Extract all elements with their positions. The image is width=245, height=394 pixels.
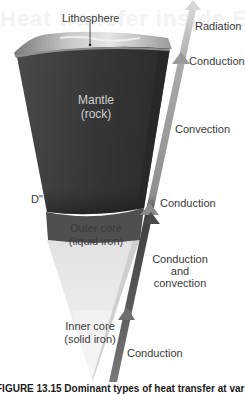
d-double-prime-label: D" [31,193,43,206]
conduction-convection-outer-core-label: Conduction and convection [140,253,220,289]
inner-core-label-line2: (solid iron) [60,333,120,346]
outer-core-transfer-line3: convection [140,277,220,289]
mantle-label: Mantle (rock) [66,93,126,121]
outer-core-label-line2: (liquid iron) [56,235,136,248]
outer-core-label-line1: Outer core [56,222,136,235]
lithosphere-label: Lithosphere [62,12,120,25]
inner-core-label: Inner core (solid iron) [60,320,120,346]
radiation-label: Radiation [195,20,241,33]
outer-core-transfer-line1: Conduction [140,253,220,265]
outer-core-label: Outer core (liquid iron) [56,222,136,248]
conduction-inner-core-label: Conduction [127,347,183,360]
conduction-lithosphere-label: Conduction [189,55,245,68]
arrowhead-lithosphere [172,52,190,64]
inner-core-label-line1: Inner core [60,320,120,333]
mantle-label-line1: Mantle [66,93,126,107]
arrowhead-top [185,0,201,10]
figure-caption: FIGURE 13.15 Dominant types of heat tran… [0,383,245,394]
outer-core-transfer-line2: and [140,265,220,277]
mantle-label-line2: (rock) [66,107,126,121]
convection-mantle-label: Convection [175,123,230,136]
conduction-d-double-prime-label: Conduction [160,197,216,210]
